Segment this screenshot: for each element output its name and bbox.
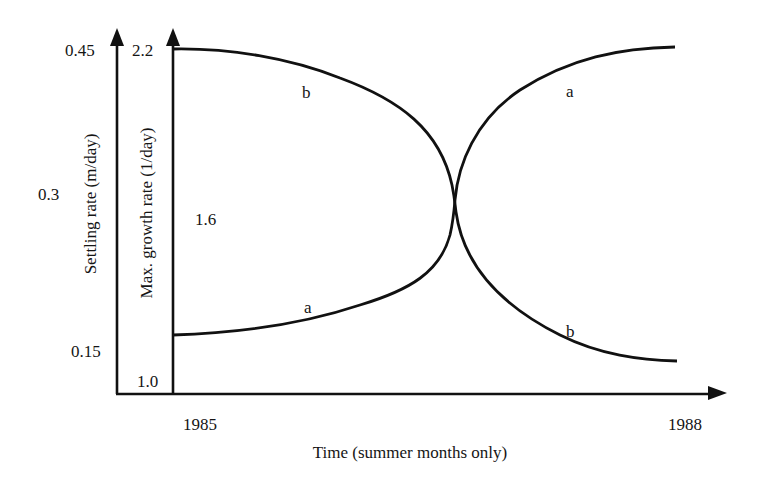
settling-tick-top: 0.45 [65, 41, 95, 60]
chart: 0.45 0.3 0.15 2.2 1.6 1.0 1985 1988 Sett… [0, 0, 760, 484]
curve-b [173, 49, 677, 361]
growth-axis-title: Max. growth rate (1/day) [137, 128, 156, 299]
growth-axis-arrow-icon [166, 28, 180, 46]
settling-axis-arrow-icon [110, 28, 124, 46]
settling-tick-bottom: 0.15 [71, 342, 101, 361]
time-axis [116, 386, 727, 400]
growth-tick-bottom: 1.0 [137, 372, 158, 391]
curve-a [173, 47, 675, 335]
curve-label-b-lower: b [566, 322, 575, 341]
time-axis-arrow-icon [708, 386, 727, 400]
growth-tick-mid: 1.6 [195, 210, 216, 229]
curve-label-a-lower: a [304, 298, 312, 317]
settling-tick-mid: 0.3 [38, 185, 59, 204]
growth-rate-axis [166, 28, 180, 394]
growth-tick-top: 2.2 [132, 41, 153, 60]
curve-label-a-upper: a [566, 82, 574, 101]
x-tick-end: 1988 [668, 415, 702, 434]
x-axis-title: Time (summer months only) [313, 443, 507, 462]
x-tick-start: 1985 [183, 415, 217, 434]
settling-axis-title: Settling rate (m/day) [81, 134, 100, 275]
settling-rate-axis [110, 28, 124, 394]
curve-label-b-upper: b [302, 83, 311, 102]
